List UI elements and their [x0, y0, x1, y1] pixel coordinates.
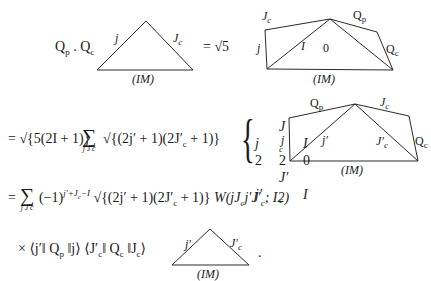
quad1-label-inner-right: 0	[323, 42, 329, 54]
line3-equals: =	[8, 191, 16, 205]
quad2-label-inner-left: j′	[322, 134, 328, 146]
period: .	[258, 246, 262, 260]
q-p: Qp	[55, 39, 70, 54]
quad1-label-top-left: Jc	[262, 10, 271, 22]
quad-2-diag-right	[355, 104, 418, 161]
tri1-label-left: j	[115, 32, 118, 44]
equals-sqrt5: = √5	[203, 40, 229, 54]
quad1-label-inner-left: I	[301, 40, 305, 52]
quad-1-diag-right	[330, 19, 393, 70]
reduced-matrix-element-qp: ⟨j′‖ Qp ‖j⟩	[29, 241, 80, 256]
line2-sqrt: √{(2j′ + 1)(2J′c + 1)}	[103, 132, 220, 146]
ninej-row-2: 220	[255, 152, 327, 169]
quad-1-outline	[265, 19, 393, 70]
quad1-label-left: j	[257, 42, 260, 54]
ninej-row-1: jJcI	[255, 118, 327, 152]
line4-body: × ⟨j′‖ Qp ‖j⟩ ⟨J′c‖ Qc ‖Jc⟩	[18, 242, 146, 256]
tri3-label-base: (IM)	[197, 268, 219, 280]
quad2-label-base: (IM)	[341, 164, 363, 176]
line2-prefix: = √{5(2I + 1)}	[8, 132, 90, 146]
tri3-label-right: J′c	[230, 237, 242, 249]
tri1-label-right: Jc	[173, 32, 182, 44]
line3-sum: ∑ j′J′c	[20, 185, 34, 212]
lhs-product: Qp . Qc	[55, 40, 94, 54]
racah-w: W(jJcj′J′c; I2)	[214, 190, 289, 205]
quad2-label-right: Qc	[415, 135, 428, 147]
line3-sqrt: √{(2j′ + 1)(2J′c + 1)}	[93, 190, 210, 205]
quad-1-diag-left	[267, 19, 330, 69]
tri1-label-base: (IM)	[132, 73, 154, 85]
quad1-label-right: Qc	[386, 43, 399, 55]
tri3-label-left: j′	[185, 238, 191, 250]
quad2-label-left: j	[281, 134, 284, 146]
line3-body: (−1)j′+Jc−I √{(2j′ + 1)(2J′c + 1)} W(jJc…	[39, 191, 289, 205]
ninej-left-brace: {	[241, 113, 255, 165]
q-c: Qc	[80, 39, 94, 54]
reduced-matrix-element-qc: ⟨J′c‖ Qc ‖Jc⟩	[84, 241, 146, 256]
quad1-label-top-right: Qp	[353, 9, 366, 21]
phase-factor: (−1)j′+Jc−I	[39, 190, 90, 205]
quad2-label-top-right: Jc	[380, 96, 389, 108]
quad1-label-base: (IM)	[313, 73, 335, 85]
quad2-label-inner-right: J′c	[376, 135, 388, 147]
line2-sum: ∑ j′J′c	[82, 126, 96, 153]
quad2-label-top-left: Qp	[310, 97, 323, 109]
